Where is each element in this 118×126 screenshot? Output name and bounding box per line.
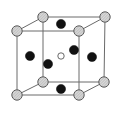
corner-atom-front-bottom-right (74, 90, 84, 100)
body-center-atom-group (58, 53, 64, 59)
corner-atom-front-top-right (74, 26, 84, 36)
cube-edge-back-top-right-to-back-bottom-right (104, 17, 105, 82)
corner-atom-front-top-left (12, 26, 22, 36)
face-atom-back (69, 45, 78, 54)
face-atom-right (87, 52, 96, 61)
face-atom-left (25, 51, 34, 60)
corner-atom-back-bottom-left (38, 77, 48, 87)
face-atom-front (43, 59, 52, 68)
corner-atom-back-bottom-right (99, 77, 109, 87)
face-atom-bottom (56, 84, 65, 93)
face-atom-top (56, 19, 65, 28)
body-center-atom (58, 53, 64, 59)
corner-atom-back-top-right (100, 12, 110, 22)
corner-atom-back-top-left (38, 12, 48, 22)
corner-atom-front-bottom-left (12, 90, 22, 100)
crystal-unit-cell-diagram (0, 0, 118, 126)
